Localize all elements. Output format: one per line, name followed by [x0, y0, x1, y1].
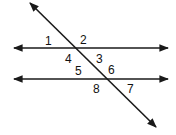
angle-label-3: 3 — [96, 52, 103, 66]
angle-label-4: 4 — [65, 52, 72, 66]
angle-label-7: 7 — [127, 82, 134, 96]
angle-label-2: 2 — [80, 33, 87, 47]
transversal-line — [30, 3, 156, 127]
angle-label-8: 8 — [93, 82, 100, 96]
angle-label-6: 6 — [108, 63, 115, 77]
diagram-canvas: 1 2 3 4 5 6 7 8 — [0, 0, 176, 135]
angle-label-5: 5 — [75, 64, 82, 78]
angle-label-1: 1 — [45, 34, 52, 48]
